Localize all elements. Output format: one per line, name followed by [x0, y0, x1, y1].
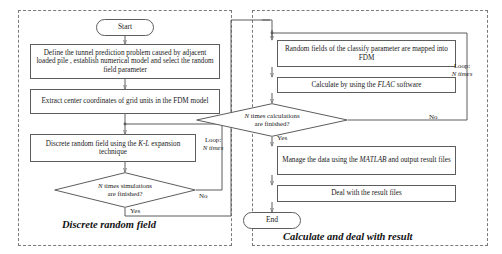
caption-right-panel: Calculate and deal with result [283, 231, 413, 242]
node-manage-data-matlab-label: Manage the data using the MATLAB and out… [282, 156, 450, 164]
node-define-problem: Define the tunnel prediction problem cau… [30, 44, 220, 79]
node-map-random-fields-label: Random fields of the classify parameter … [281, 45, 452, 61]
loop-label-left-line1: Loop: [196, 136, 230, 144]
node-extract-coordinates: Extract center coordinates of grid units… [30, 89, 220, 114]
calc-text-pre: Calculate by using the [312, 81, 378, 89]
decision-n-times-calculations: N times calculations are finished? [196, 103, 348, 137]
decision-diamond-shape [54, 172, 196, 208]
node-end: End [243, 212, 301, 229]
manage-text-em: MATLAB [360, 156, 387, 164]
edge-label-no-right: No [429, 113, 438, 121]
edge-label-no-left: No [199, 192, 208, 200]
decision-calc-diamond-shape [196, 103, 348, 137]
calc-text-em: FLAC [377, 81, 395, 89]
loop-label-right-line2: N times [443, 70, 481, 78]
decision-n-times-simulations: N times simulations are finished? [54, 172, 196, 208]
node-calculate-flac-label: Calculate by using the FLAC software [312, 81, 422, 89]
flowchart-figure: Start Define the tunnel prediction probl… [0, 0, 502, 254]
discrete-text-em: K-L [138, 140, 149, 148]
edge-label-yes-right: Yes [277, 134, 287, 142]
node-discrete-random-field: Discrete random field using the K-L expa… [30, 134, 196, 162]
calc-text-post: software [395, 81, 422, 89]
node-map-random-fields: Random fields of the classify parameter … [277, 40, 456, 67]
node-define-problem-label: Define the tunnel prediction problem cau… [34, 49, 216, 73]
discrete-text-pre: Discrete random field using the [46, 140, 138, 148]
caption-left-panel: Discrete random field [62, 219, 156, 230]
edge-label-yes-left: Yes [130, 207, 140, 215]
node-discrete-random-field-label: Discrete random field using the K-L expa… [34, 140, 192, 156]
manage-text-pre: Manage the data using the [282, 156, 359, 164]
manage-text-post: and output result files [386, 156, 450, 164]
loop-label-left: Loop: N times [196, 136, 230, 152]
loop-label-right: Loop: N times [443, 62, 481, 78]
node-start: Start [96, 19, 154, 36]
node-extract-coordinates-label: Extract center coordinates of grid units… [41, 97, 208, 105]
loop-label-left-line2: N times [196, 144, 230, 152]
node-manage-data-matlab: Manage the data using the MATLAB and out… [277, 146, 456, 175]
node-calculate-flac: Calculate by using the FLAC software [277, 77, 456, 93]
node-start-label: Start [118, 23, 132, 31]
node-end-label: End [266, 216, 278, 224]
loop-label-right-line1: Loop: [443, 62, 481, 70]
node-deal-with-result-files-label: Deal with the result files [331, 189, 402, 197]
node-deal-with-result-files: Deal with the result files [277, 185, 456, 202]
